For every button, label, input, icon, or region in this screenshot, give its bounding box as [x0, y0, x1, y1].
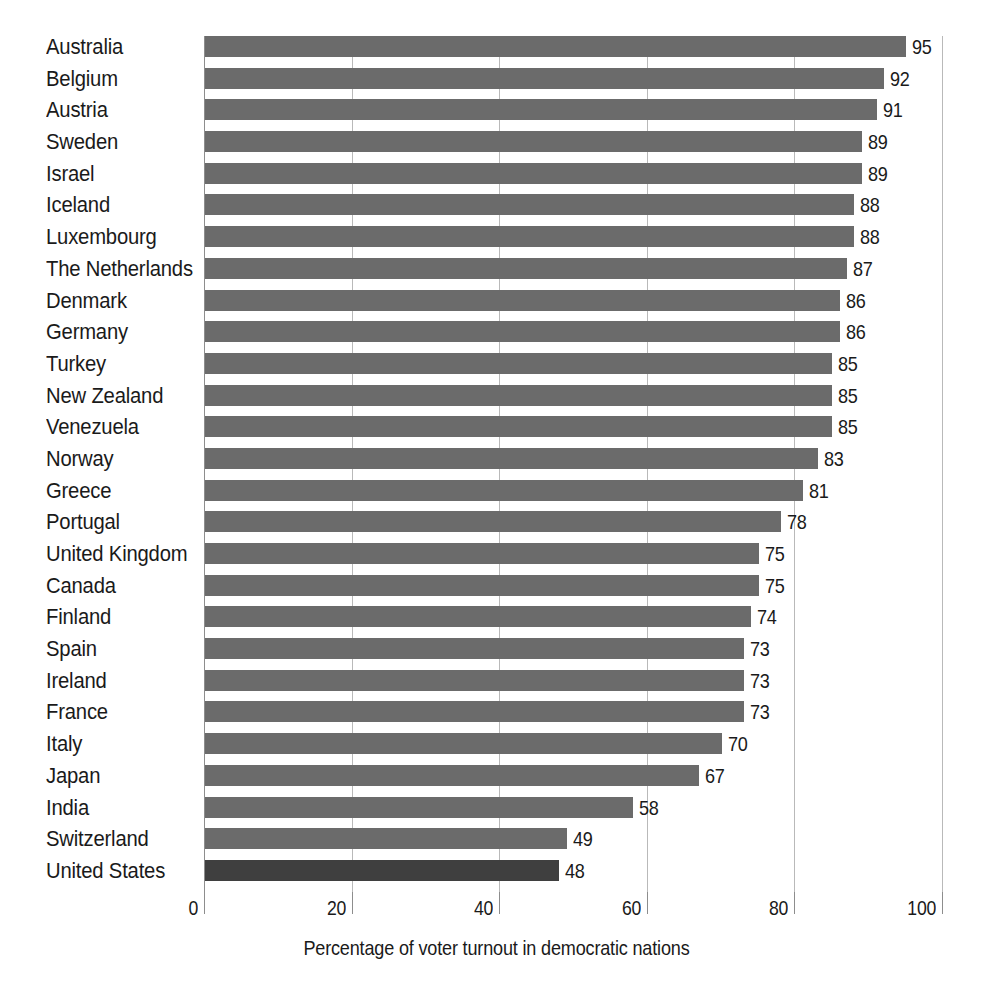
- category-label: India: [46, 797, 89, 818]
- bar-value-label: 73: [750, 670, 770, 691]
- bar-value-label: 75: [765, 543, 785, 564]
- bar-row: Switzerland49: [0, 828, 992, 860]
- bar: [205, 416, 832, 437]
- category-label: Denmark: [46, 290, 127, 311]
- bar-row: Australia95: [0, 36, 992, 68]
- tick-mark-20: [352, 892, 353, 914]
- category-label: France: [46, 701, 108, 722]
- bar-value-label: 85: [838, 353, 858, 374]
- bar-row: Portugal78: [0, 511, 992, 543]
- category-label: United States: [46, 860, 165, 881]
- bar: [205, 543, 759, 564]
- category-label: Austria: [46, 99, 108, 120]
- bar-row: Iceland88: [0, 194, 992, 226]
- category-label: Turkey: [46, 353, 106, 374]
- category-label: The Netherlands: [46, 258, 193, 279]
- x-tick-label-20: 20: [250, 896, 346, 920]
- bar-row: Germany86: [0, 321, 992, 353]
- tick-mark-40: [499, 892, 500, 914]
- bar-row: Sweden89: [0, 131, 992, 163]
- bar-value-label: 95: [912, 36, 932, 57]
- bar-value-label: 86: [846, 290, 866, 311]
- bar-row: France73: [0, 701, 992, 733]
- bar: [205, 828, 567, 849]
- x-tick-label-60: 60: [545, 896, 641, 920]
- bar-row: The Netherlands87: [0, 258, 992, 290]
- bar: [205, 258, 847, 279]
- category-label: Finland: [46, 606, 111, 627]
- x-tick-label-100: 100: [840, 896, 936, 920]
- voter-turnout-bar-chart: 020406080100 Australia95Belgium92Austria…: [0, 0, 992, 994]
- bar-row: Canada75: [0, 575, 992, 607]
- bar-row: Spain73: [0, 638, 992, 670]
- bar-row: Japan67: [0, 765, 992, 797]
- bar-value-label: 58: [639, 797, 659, 818]
- bar: [205, 321, 840, 342]
- category-label: Norway: [46, 448, 114, 469]
- category-label: Luxembourg: [46, 226, 157, 247]
- bar-value-label: 78: [787, 511, 807, 532]
- bar: [205, 131, 862, 152]
- bar: [205, 733, 722, 754]
- bar-value-label: 92: [890, 68, 910, 89]
- bar-value-label: 67: [705, 765, 725, 786]
- bar-row: Finland74: [0, 606, 992, 638]
- x-axis-title: Percentage of voter turnout in democrati…: [0, 936, 992, 960]
- bar-row: Ireland73: [0, 670, 992, 702]
- bar: [205, 99, 877, 120]
- bar: [205, 638, 744, 659]
- bar: [205, 68, 884, 89]
- category-label: Greece: [46, 480, 111, 501]
- bar-value-label: 81: [809, 480, 829, 501]
- bar-row: India58: [0, 797, 992, 829]
- tick-mark-100: [942, 892, 943, 914]
- x-axis-title-text: Percentage of voter turnout in democrati…: [303, 936, 689, 960]
- bar-value-label: 74: [757, 606, 777, 627]
- bar-rows: Australia95Belgium92Austria91Sweden89Isr…: [0, 36, 992, 892]
- bar: [205, 36, 906, 57]
- bar: [205, 226, 854, 247]
- bar: [205, 670, 744, 691]
- bar: [205, 511, 781, 532]
- bar: [205, 797, 633, 818]
- category-label: Switzerland: [46, 828, 149, 849]
- category-label: Sweden: [46, 131, 118, 152]
- bar: [205, 448, 818, 469]
- bar: [205, 353, 832, 374]
- category-label: Iceland: [46, 194, 110, 215]
- bar-value-label: 73: [750, 701, 770, 722]
- bar-value-label: 85: [838, 416, 858, 437]
- category-label: Japan: [46, 765, 100, 786]
- bar: [205, 163, 862, 184]
- category-label: Spain: [46, 638, 97, 659]
- bar: [205, 194, 854, 215]
- bar-row: Belgium92: [0, 68, 992, 100]
- category-label: Australia: [46, 36, 123, 57]
- category-label: Belgium: [46, 68, 118, 89]
- tick-mark-60: [647, 892, 648, 914]
- bar-value-label: 91: [883, 99, 903, 120]
- bar: [205, 765, 699, 786]
- bar-value-label: 49: [573, 828, 593, 849]
- bar-value-label: 86: [846, 321, 866, 342]
- tick-mark-0: [204, 892, 205, 914]
- bar: [205, 480, 803, 501]
- bar-row: Turkey85: [0, 353, 992, 385]
- bar-row: United States48: [0, 860, 992, 892]
- category-label: Ireland: [46, 670, 107, 691]
- x-tick-label-0: 0: [102, 896, 198, 920]
- category-label: Italy: [46, 733, 82, 754]
- bar: [205, 385, 832, 406]
- tick-mark-80: [794, 892, 795, 914]
- bar-value-label: 88: [860, 226, 880, 247]
- bar-row: Austria91: [0, 99, 992, 131]
- x-tick-label-80: 80: [693, 896, 789, 920]
- bar-value-label: 89: [868, 131, 888, 152]
- category-label: Venezuela: [46, 416, 139, 437]
- bar: [205, 606, 751, 627]
- category-label: Israel: [46, 163, 94, 184]
- bar: [205, 860, 559, 881]
- category-label: Portugal: [46, 511, 120, 532]
- bar-value-label: 85: [838, 385, 858, 406]
- category-label: United Kingdom: [46, 543, 187, 564]
